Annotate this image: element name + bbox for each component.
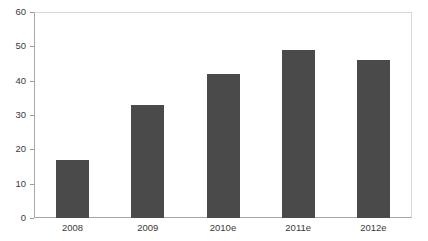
- y-axis-tick-label: 60: [15, 5, 26, 18]
- y-axis-tick-mark: [30, 46, 34, 47]
- y-axis-tick-mark: [30, 184, 34, 185]
- y-axis-tick: 20: [0, 149, 34, 150]
- x-axis: 200820092010e2011e2012e: [35, 221, 411, 241]
- x-axis-tick-label: 2011e: [261, 221, 336, 235]
- y-axis-tick: 10: [0, 184, 34, 185]
- bar: [357, 60, 390, 218]
- bar: [207, 74, 240, 218]
- bar-group: [56, 12, 89, 218]
- bar-group: [357, 12, 390, 218]
- bar: [56, 160, 89, 218]
- bar-group: [131, 12, 164, 218]
- bar-chart: 0102030405060 200820092010e2011e2012e: [0, 0, 428, 241]
- y-axis-tick-label: 20: [15, 142, 26, 155]
- bar: [131, 105, 164, 218]
- y-axis-tick: 40: [0, 81, 34, 82]
- y-axis-tick-label: 30: [15, 108, 26, 121]
- y-axis-tick-label: 10: [15, 177, 26, 190]
- bar-group: [207, 12, 240, 218]
- y-axis-tick: 0: [0, 218, 34, 219]
- y-axis-tick-mark: [30, 149, 34, 150]
- y-axis-tick: 30: [0, 115, 34, 116]
- y-axis-tick-mark: [30, 218, 34, 219]
- y-axis-tick-mark: [30, 12, 34, 13]
- y-axis-tick: 50: [0, 46, 34, 47]
- x-axis-tick-label: 2009: [110, 221, 185, 235]
- bars-layer: [35, 12, 411, 218]
- y-axis-tick: 60: [0, 12, 34, 13]
- bar: [282, 50, 315, 218]
- y-axis: 0102030405060: [0, 0, 34, 241]
- y-axis-tick-mark: [30, 81, 34, 82]
- x-axis-tick-label: 2010e: [185, 221, 260, 235]
- x-axis-tick-label: 2008: [35, 221, 110, 235]
- x-axis-tick-label: 2012e: [336, 221, 411, 235]
- y-axis-tick-label: 50: [15, 39, 26, 52]
- y-axis-tick-mark: [30, 115, 34, 116]
- bar-group: [282, 12, 315, 218]
- y-axis-tick-label: 40: [15, 74, 26, 87]
- y-axis-tick-label: 0: [21, 211, 26, 224]
